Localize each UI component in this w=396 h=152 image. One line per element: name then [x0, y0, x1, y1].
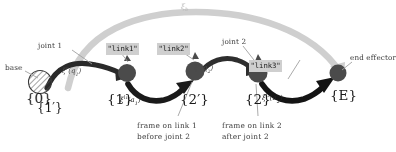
note-left-line1: frame on link 1	[137, 121, 197, 132]
xi-superscript-sub: 1	[125, 95, 127, 100]
joint-node-1	[118, 55, 136, 82]
frame-1prime-label: {1′}	[37, 102, 63, 114]
xi-arg-sub: 2	[277, 98, 280, 104]
xi-superscript: r	[66, 65, 68, 71]
xi-superscript: r	[198, 62, 200, 68]
link2-transform-label: ξl2(a2)	[262, 93, 283, 104]
base-label: base	[5, 64, 22, 71]
joint2-label: joint 2	[222, 38, 246, 45]
end-effector-label: end effector	[350, 54, 396, 61]
joint1-transform-label: ξr(q1)	[62, 66, 81, 77]
link2-name: "link2"	[157, 43, 190, 55]
overall-transform-label: ξb	[181, 3, 188, 12]
xi-arg-sub: 2	[207, 68, 210, 74]
link1-segment	[47, 63, 130, 88]
xi-arg-sub: 1	[75, 71, 78, 77]
link3-name-chip: "link3"	[249, 55, 282, 71]
joint1-label: joint 1	[38, 42, 62, 49]
note-right-line1: frame on link 2	[222, 121, 282, 132]
link2-name-chip: "link2"	[157, 38, 190, 54]
xi-subscript: b	[185, 6, 188, 12]
xi-superscript-sub: 2	[267, 93, 269, 98]
frame-E-label: {E}	[330, 89, 357, 103]
frame-2prime-label: {2′}	[180, 93, 209, 107]
joint2-transform-label: ξr(q2)	[194, 63, 213, 74]
link1-name: "link1"	[106, 43, 139, 55]
link1-name-chip: "link1"	[106, 38, 139, 54]
link1-transform-label: ξl1(a1)	[120, 95, 141, 106]
note-right-line2: after joint 2	[222, 132, 282, 143]
link3-name: "link3"	[249, 60, 282, 72]
note-left: frame on link 1 before joint 2	[137, 121, 197, 142]
note-left-line2: before joint 2	[137, 132, 197, 143]
xi-arg-sub: 1	[135, 100, 138, 106]
end-effector-node	[330, 65, 347, 82]
note-right: frame on link 2 after joint 2	[222, 121, 282, 142]
